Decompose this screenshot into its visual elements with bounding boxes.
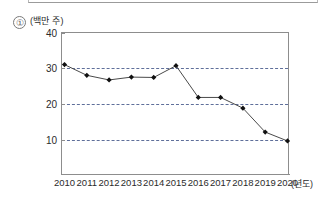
x-tick-label-2014: 2014 xyxy=(143,177,164,188)
data-point-2014 xyxy=(151,75,156,80)
x-tick-label-2015: 2015 xyxy=(165,177,186,188)
y-tick-mark-40 xyxy=(61,33,65,34)
x-tick-label-2013: 2013 xyxy=(121,177,142,188)
line-series-layer xyxy=(0,0,322,197)
data-point-2011 xyxy=(84,73,89,78)
x-axis-tick-labels: (년도) 20102011201220132014201520162017201… xyxy=(0,177,322,195)
x-tick-label-2018: 2018 xyxy=(232,177,253,188)
y-tick-mark-20 xyxy=(61,104,65,105)
data-point-2010 xyxy=(62,62,67,67)
y-tick-mark-30 xyxy=(61,68,65,69)
x-tick-label-2017: 2017 xyxy=(210,177,231,188)
data-point-markers xyxy=(62,62,290,144)
y-tick-mark-10 xyxy=(61,140,65,141)
data-point-2017 xyxy=(218,95,223,100)
x-tick-label-2011: 2011 xyxy=(77,177,97,188)
line-series-path xyxy=(65,65,288,141)
data-point-2013 xyxy=(129,75,134,80)
data-point-2020 xyxy=(285,138,290,143)
x-tick-label-2012: 2012 xyxy=(99,177,120,188)
x-tick-label-2016: 2016 xyxy=(188,177,209,188)
chart-figure: ① (백만 주) 10203040 (년도) 20102011201220132… xyxy=(0,0,322,197)
data-point-2012 xyxy=(107,77,112,82)
x-tick-label-2010: 2010 xyxy=(54,177,75,188)
x-tick-label-2019: 2019 xyxy=(255,177,276,188)
x-tick-label-2020: 2020 xyxy=(277,177,298,188)
